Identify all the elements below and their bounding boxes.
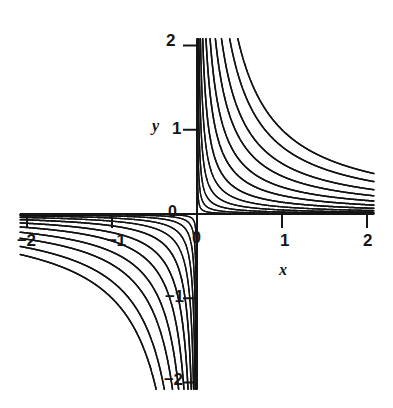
hyperbola-curve xyxy=(20,246,164,389)
hyperbola-curve xyxy=(230,39,374,182)
hyperbola-curve xyxy=(20,246,164,389)
y-axis-label: y xyxy=(152,118,159,134)
xtick-label-2: 2 xyxy=(363,232,372,249)
hyperbola-curve xyxy=(20,232,178,389)
hyperbola-curve xyxy=(198,39,374,213)
hyperbola-curve xyxy=(198,39,374,213)
hyperbola-curve xyxy=(215,39,373,196)
hyperbola-curve xyxy=(20,255,156,390)
xtick-label-neg2: −2 xyxy=(17,232,35,249)
hyperbola-curve xyxy=(20,255,156,390)
hyperbola-curve xyxy=(238,39,374,174)
ytick-label-1: 1 xyxy=(172,120,181,137)
ytick-label-neg1: −1 xyxy=(165,288,183,305)
hyperbola-family-figure: −2 −1 1 2 2 1 −1 −2 y x 0 0 xyxy=(0,0,393,408)
x-axis-label: x xyxy=(279,262,287,278)
hyperbola-curve xyxy=(203,39,374,209)
hyperbola-curve xyxy=(230,39,374,182)
hyperbola-curve xyxy=(20,223,188,389)
ytick-label-neg2: −2 xyxy=(164,371,182,388)
hyperbola-curve xyxy=(20,232,178,389)
hyperbola-curve xyxy=(215,39,373,196)
axes-layer xyxy=(20,39,374,389)
hyperbola-curve xyxy=(20,223,188,389)
y-axis-origin-label: 0 xyxy=(192,230,201,246)
ytick-label-2: 2 xyxy=(166,32,175,49)
hyperbola-curve xyxy=(238,39,374,174)
hyperbola-curve xyxy=(206,39,374,205)
xtick-label-neg1: −1 xyxy=(107,232,125,249)
plot-canvas xyxy=(0,0,393,408)
x-axis-origin-label: 0 xyxy=(168,204,177,220)
xtick-label-1: 1 xyxy=(280,232,289,249)
hyperbola-curve xyxy=(206,39,374,205)
